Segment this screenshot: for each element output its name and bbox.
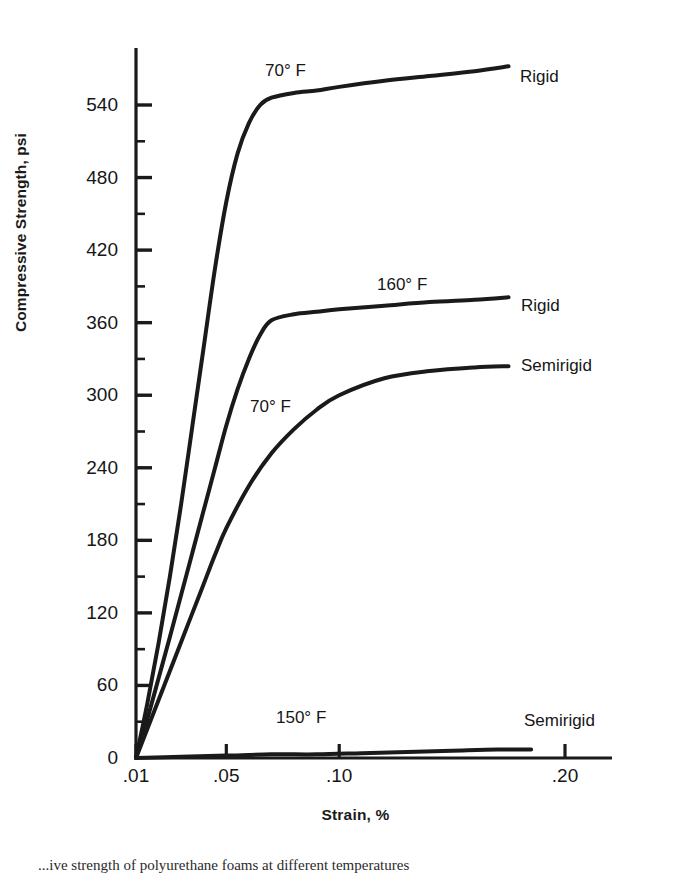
y-tick-label-480: 480 [40, 168, 118, 187]
annot-rigid-70f-temp: 70° F [265, 62, 306, 79]
y-tick-label-240: 240 [40, 458, 118, 477]
y-tick-label-540: 540 [40, 95, 118, 114]
figure-container: 060120180240300360420480540 .01.05.10.20… [0, 0, 675, 874]
y-tick-label-300: 300 [40, 385, 118, 404]
x-axis-title-wrap: Strain, % [0, 806, 675, 824]
x-tick-label-.05: .05 [191, 766, 261, 785]
y-axis-title: Compressive Strength, psi [12, 32, 30, 332]
figure-caption: ...ive strength of polyurethane foams at… [38, 856, 658, 874]
x-tick-label-.10: .10 [304, 766, 374, 785]
annot-rigid-70f-material: Rigid [520, 68, 559, 85]
y-tick-label-420: 420 [40, 240, 118, 259]
y-tick-label-0: 0 [40, 748, 118, 767]
y-tick-label-60: 60 [40, 675, 118, 694]
chart-series-group [136, 66, 531, 758]
y-tick-label-120: 120 [40, 603, 118, 622]
annot-semirigid-150f-temp: 150° F [276, 709, 326, 726]
y-tick-label-360: 360 [40, 313, 118, 332]
annot-rigid-160f-temp: 160° F [377, 276, 427, 293]
x-tick-label-.20: .20 [530, 766, 600, 785]
x-tick-label-.01: .01 [101, 766, 171, 785]
y-tick-label-180: 180 [40, 530, 118, 549]
chart-series-rigid-70f [136, 66, 509, 758]
x-axis-title: Strain, % [321, 806, 389, 824]
chart-series-rigid-160f [136, 297, 509, 758]
annot-semirigid-150f-material: Semirigid [524, 712, 595, 729]
y-axis-major-ticks [136, 105, 152, 685]
annot-semirigid-70f-temp: 70° F [250, 398, 291, 415]
annot-semirigid-70f-material: Semirigid [521, 357, 592, 374]
annot-rigid-160f-material: Rigid [521, 297, 560, 314]
